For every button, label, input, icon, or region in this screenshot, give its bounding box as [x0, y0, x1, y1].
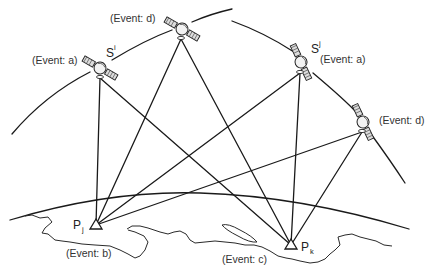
link-sat-a-right-to-station-pk: [291, 73, 300, 245]
orbit-arc-right-tail: [371, 134, 405, 183]
station-pk-subscript: k: [310, 247, 314, 256]
sat-d-right-event-label: (Event: d): [379, 114, 425, 126]
satellites: [81, 14, 377, 141]
orbit-arc-right: [232, 21, 294, 52]
sat-a-left-superscript: i: [114, 43, 116, 52]
sat-a-left-event-label: (Event: a): [32, 54, 78, 66]
sat-a-left-antenna-dish-icon: [97, 75, 104, 78]
orbit-arc-top: [192, 9, 232, 22]
link-sat-d-right-to-station-pk: [291, 132, 362, 245]
satellite-observation-diagram: P j (Event: b) P k (Event: c) (Event: a)…: [0, 0, 431, 279]
station-pj-subscript: j: [81, 225, 84, 234]
sat-d-right-antenna-dish-icon: [359, 129, 366, 132]
orbit-arc-left: [12, 72, 90, 134]
observation-links: [96, 39, 362, 245]
station-pk-event-label: (Event: c): [222, 253, 267, 265]
sat-d-top-event-label: (Event: d): [110, 12, 156, 24]
station-pj-event-label: (Event: b): [66, 247, 112, 259]
sat-a-right-antenna-dish-icon: [297, 70, 304, 73]
link-sat-a-left-to-station-pk: [100, 78, 291, 245]
sat-d-right-satellite-icon[interactable]: [350, 102, 377, 142]
sat-a-right-symbol: S: [311, 42, 319, 56]
link-sat-a-left-to-station-pj: [96, 78, 100, 225]
sat-a-right-event-label: (Event: a): [320, 53, 366, 65]
earth-horizon: [10, 193, 409, 229]
island: [222, 225, 257, 243]
orbit-arc-middle: [112, 30, 172, 60]
station-pj[interactable]: P j (Event: b): [66, 218, 112, 259]
station-pk-symbol: P: [301, 240, 309, 254]
sat-a-left-symbol: S: [106, 46, 114, 60]
sat-d-top-antenna-dish-icon: [178, 36, 185, 39]
sat-a-right-superscript: j: [318, 39, 321, 48]
orbit-arc-right-lower: [313, 73, 356, 112]
link-sat-d-top-to-station-pk: [181, 39, 291, 245]
link-sat-d-right-to-station-pj: [96, 132, 362, 225]
station-pj-symbol: P: [73, 218, 81, 232]
link-sat-d-top-to-station-pj: [96, 39, 181, 225]
link-sat-a-right-to-station-pj: [96, 73, 300, 225]
